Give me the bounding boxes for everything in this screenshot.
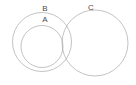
- set-label-a: A: [42, 15, 48, 24]
- set-diagram: C B A: [0, 0, 136, 85]
- set-label-b: B: [42, 4, 47, 13]
- venn-diagram-svg: C B A: [0, 0, 136, 85]
- set-circle-a: [21, 26, 63, 68]
- set-label-c: C: [88, 3, 94, 12]
- set-circle-c: [62, 10, 128, 76]
